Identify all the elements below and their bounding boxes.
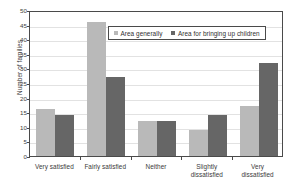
x-axis-label: Very satisfied [29, 163, 80, 171]
x-axis-label-line: Very [232, 163, 283, 171]
x-tick-mark [80, 157, 81, 160]
x-axis-label: Slightlydissatisfied [181, 163, 232, 179]
bar [36, 109, 55, 156]
y-tick-label: 50 [13, 8, 27, 14]
x-tick-mark [181, 157, 182, 160]
legend-label: Area generally [121, 30, 163, 37]
x-axis-label: Neither [131, 163, 182, 171]
x-axis-label-line: dissatisfied [232, 171, 283, 179]
bar-group [36, 12, 74, 156]
y-tick-mark [27, 157, 30, 158]
y-tick-label: 40 [13, 37, 27, 43]
x-axis-label-line: Very satisfied [29, 163, 80, 171]
x-axis-label-line: Fairly satisfied [80, 163, 131, 171]
bar [106, 77, 125, 156]
x-tick-mark [131, 157, 132, 160]
bar [240, 106, 259, 156]
bar [87, 22, 106, 156]
legend-swatch [171, 31, 175, 35]
chart-legend: Area generallyArea for bringing up child… [108, 26, 266, 40]
x-axis-label-line: Neither [131, 163, 182, 171]
y-tick-label: 5 [13, 139, 27, 145]
bar-chart: Number of families 05101520253035404550 … [0, 0, 291, 194]
bar [259, 63, 278, 156]
legend-entry: Area generally [114, 30, 162, 37]
legend-entry: Area for bringing up children [171, 30, 259, 37]
y-tick-label: 0 [13, 154, 27, 160]
x-axis-label-line: dissatisfied [181, 171, 232, 179]
x-tick-mark [232, 157, 233, 160]
y-tick-label: 45 [13, 23, 27, 29]
y-tick-label: 10 [13, 125, 27, 131]
y-tick-label: 20 [13, 96, 27, 102]
legend-label: Area for bringing up children [178, 30, 260, 37]
legend-swatch [114, 31, 118, 35]
x-axis-label: Verydissatisfied [232, 163, 283, 179]
bar [138, 121, 157, 156]
y-tick-label: 25 [13, 81, 27, 87]
y-tick-label: 35 [13, 52, 27, 58]
x-axis-label-line: Slightly [181, 163, 232, 171]
bar [189, 130, 208, 156]
y-tick-label: 30 [13, 66, 27, 72]
x-axis-label: Fairly satisfied [80, 163, 131, 171]
y-axis-ticks: 05101520253035404550 [11, 11, 27, 157]
bar [157, 121, 176, 156]
bar [55, 115, 74, 156]
y-tick-label: 15 [13, 110, 27, 116]
bar [208, 115, 227, 156]
